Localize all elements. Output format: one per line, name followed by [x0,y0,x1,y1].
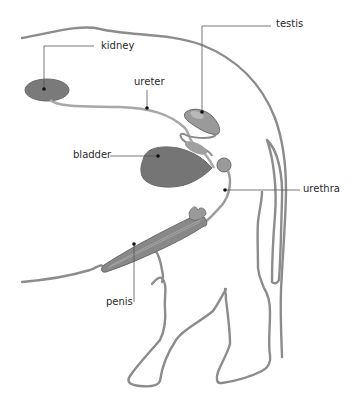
label-urethra: urethra [303,183,340,195]
ureter-marker [145,106,149,110]
label-testis: testis [276,18,303,30]
testis-leader [202,26,271,112]
label-ureter: ureter [134,76,165,88]
prostate-gland [217,158,231,172]
testis-marker [200,110,204,114]
hind-leg-rear [217,192,270,383]
urethra-tube [205,171,230,222]
diagram-drawing [0,0,352,397]
tail-outline [267,140,282,283]
bladder-marker [156,154,160,158]
hind-leg-front [128,278,226,387]
kidney-organ [25,79,69,101]
label-kidney: kidney [101,40,134,52]
label-penis: penis [106,296,133,308]
penis-marker [132,242,136,246]
kidney-marker [42,87,46,91]
anatomy-diagram: kidney ureter testis bladder urethra pen… [0,0,352,397]
urethra-marker [223,188,227,192]
label-bladder: bladder [73,149,111,161]
